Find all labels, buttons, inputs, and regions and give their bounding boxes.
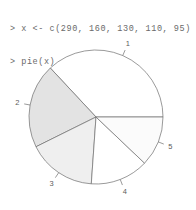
r-console-window: > x <- c(290, 160, 130, 110, 95) > pie(x… xyxy=(0,0,196,210)
pie-label-5: 5 xyxy=(168,142,172,151)
pie-chart-svg: 1 2 3 4 5 xyxy=(0,28,196,210)
pie-tick-1 xyxy=(123,50,125,56)
r-console-output[interactable]: > x <- c(290, 160, 130, 110, 95) > pie(x… xyxy=(0,0,196,30)
pie-label-2: 2 xyxy=(15,98,19,107)
pie-label-3: 3 xyxy=(49,179,53,188)
pie-tick-4 xyxy=(120,179,122,185)
pie-tick-3 xyxy=(55,173,58,178)
pie-chart-plot: 1 2 3 4 5 xyxy=(0,28,196,210)
pie-tick-2 xyxy=(24,104,30,105)
pie-label-4: 4 xyxy=(123,187,127,196)
pie-tick-5 xyxy=(158,142,164,144)
pie-label-1: 1 xyxy=(126,39,130,48)
